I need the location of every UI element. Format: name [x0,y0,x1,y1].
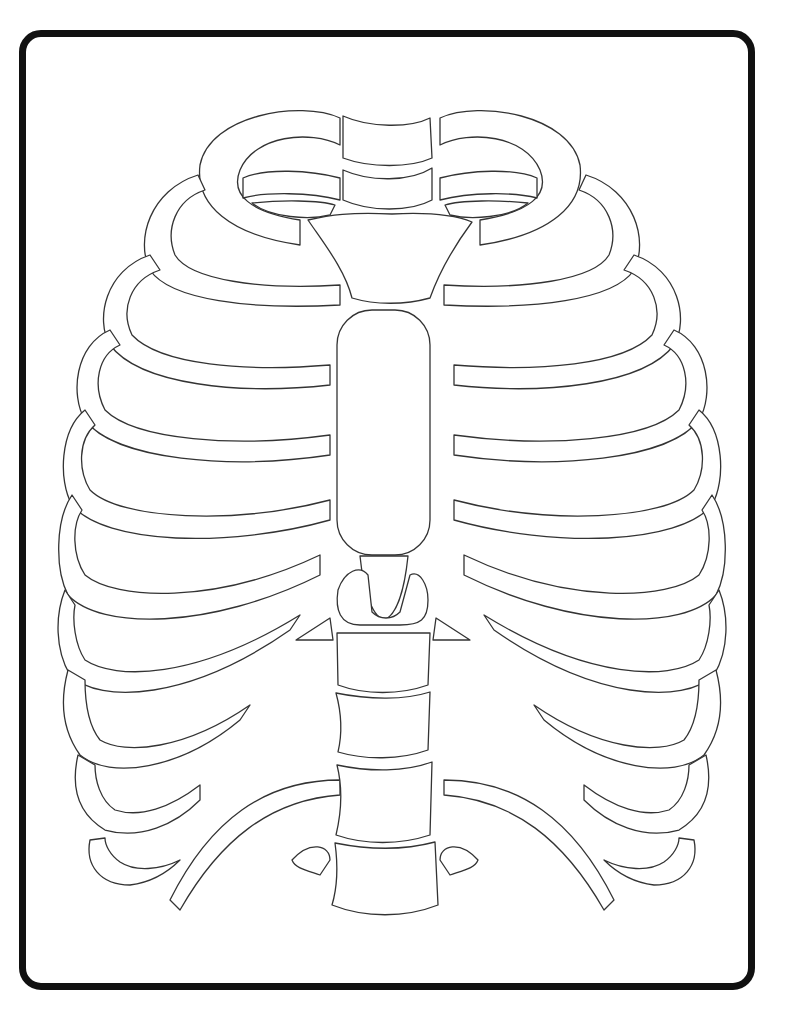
ribs-right [444,175,726,910]
ribs-left [58,175,340,910]
rib-cage-illustration [0,0,792,1024]
thoracic-vertebrae [292,570,478,915]
